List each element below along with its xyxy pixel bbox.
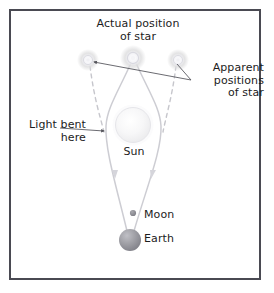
moon-label: Moon: [144, 209, 174, 222]
earth-icon: [119, 229, 141, 251]
apparent-star-left-icon: [77, 49, 99, 71]
actual-position-label: Actual position of star: [86, 18, 190, 43]
sun-label: Sun: [108, 146, 160, 159]
figure-container: Actual position of star Apparent positio…: [0, 0, 274, 293]
apparent-positions-label: Apparent positions of star: [190, 62, 264, 100]
apparent-star-right-icon: [167, 49, 189, 71]
moon-icon: [130, 210, 136, 216]
light-bent-here-label: Light bent here: [8, 119, 86, 144]
apparent-sightline-left: [90, 66, 104, 132]
earth-label: Earth: [144, 233, 174, 246]
sun-icon: [113, 105, 154, 146]
